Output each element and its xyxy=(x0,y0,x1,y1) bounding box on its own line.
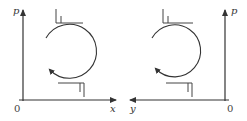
right-panel xyxy=(130,9,229,101)
right-bottom-bracket-icon xyxy=(166,83,192,97)
left-vertical-axis-label: p xyxy=(13,6,19,16)
right-horizontal-axis-label: y xyxy=(130,104,136,114)
right-origin-label: 0 xyxy=(227,104,233,114)
left-panel xyxy=(19,9,116,101)
left-top-bracket-icon xyxy=(56,9,83,23)
right-cycle-arrow-icon xyxy=(152,25,201,77)
left-horizontal-axis-label: x xyxy=(110,104,116,114)
diagram-canvas xyxy=(0,0,247,121)
right-vertical-axis-label: p xyxy=(231,6,237,16)
left-origin-label: 0 xyxy=(14,104,20,114)
left-bottom-bracket-icon xyxy=(58,83,84,97)
left-cycle-arrow-icon xyxy=(46,24,96,78)
right-top-bracket-icon xyxy=(163,9,193,23)
